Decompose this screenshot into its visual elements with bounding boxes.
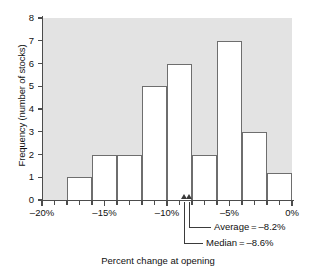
- histogram-bar: [242, 132, 267, 200]
- y-tick: [38, 108, 42, 109]
- y-tick-label: 8: [16, 13, 34, 23]
- x-tick-label: –15%: [82, 207, 128, 218]
- x-tick-major: [104, 201, 105, 206]
- y-tick-label: 7: [16, 36, 34, 46]
- x-tick-major: [41, 201, 42, 206]
- average-leader-vertical: [189, 202, 190, 227]
- x-tick-minor: [79, 201, 80, 205]
- histogram-bar: [67, 177, 92, 200]
- y-tick: [38, 131, 42, 132]
- y-tick-label: 6: [16, 59, 34, 69]
- x-tick-minor: [141, 201, 142, 205]
- y-tick: [38, 86, 42, 87]
- x-tick-label: –20%: [19, 207, 65, 218]
- x-tick-minor: [216, 201, 217, 205]
- median-annotation-label: Median = –8.6%: [206, 238, 273, 248]
- histogram-bar: [217, 41, 242, 200]
- histogram-bar: [267, 173, 292, 200]
- histogram-bar: [92, 155, 117, 201]
- x-tick-minor: [91, 201, 92, 205]
- y-tick-label: 1: [16, 172, 34, 182]
- x-tick-minor: [254, 201, 255, 205]
- histogram-bar: [142, 86, 167, 200]
- x-tick-minor: [266, 201, 267, 205]
- median-leader-horizontal: [184, 243, 203, 244]
- histogram-bar: [117, 155, 142, 201]
- x-tick-minor: [191, 201, 192, 205]
- x-tick-minor: [179, 201, 180, 205]
- x-tick-minor: [154, 201, 155, 205]
- y-tick-label: 5: [16, 81, 34, 91]
- median-marker-arrow: [181, 194, 187, 199]
- y-tick: [38, 154, 42, 155]
- x-tick-minor: [66, 201, 67, 205]
- histogram-bar: [192, 155, 217, 201]
- average-leader-horizontal: [189, 227, 211, 228]
- x-tick-label: 0%: [269, 207, 315, 218]
- average-annotation-label: Average = –8.2%: [214, 222, 286, 232]
- x-tick-label: –5%: [207, 207, 253, 218]
- y-tick: [38, 177, 42, 178]
- histogram-bar: [167, 64, 192, 201]
- y-tick: [38, 40, 42, 41]
- y-tick-label: 3: [16, 127, 34, 137]
- median-leader-vertical: [184, 202, 185, 243]
- x-tick-major: [229, 201, 230, 206]
- x-tick-major: [166, 201, 167, 206]
- y-axis-line: [42, 16, 43, 202]
- y-tick-label: 0: [16, 195, 34, 205]
- y-tick-label: 4: [16, 104, 34, 114]
- y-tick: [38, 17, 42, 18]
- x-tick-minor: [129, 201, 130, 205]
- x-tick-minor: [204, 201, 205, 205]
- x-tick-minor: [54, 201, 55, 205]
- x-tick-minor: [279, 201, 280, 205]
- x-tick-minor: [116, 201, 117, 205]
- y-tick: [38, 63, 42, 64]
- histogram-figure: Frequency (number of stocks) Percent cha…: [0, 0, 316, 275]
- x-tick-major: [291, 201, 292, 206]
- y-tick-label: 2: [16, 150, 34, 160]
- x-tick-minor: [241, 201, 242, 205]
- x-axis-title: Percent change at opening: [0, 255, 316, 266]
